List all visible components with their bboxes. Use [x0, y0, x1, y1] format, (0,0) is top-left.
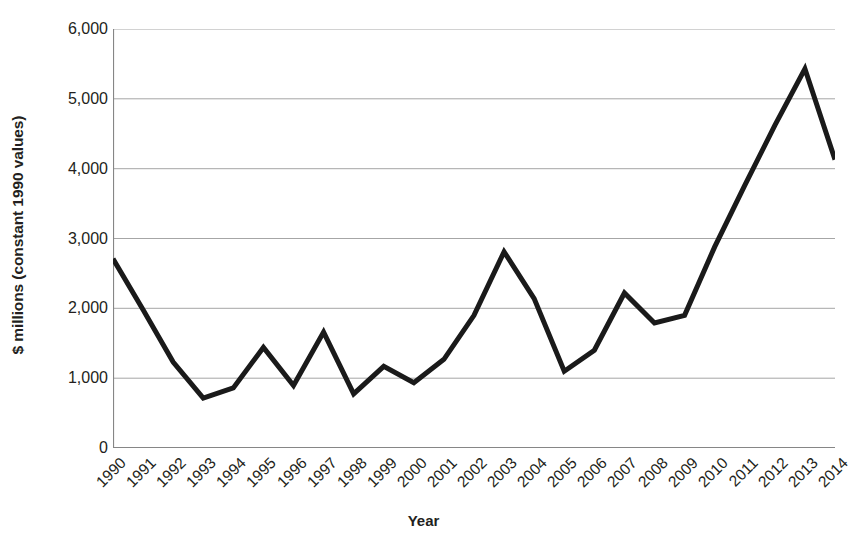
y-axis-title: $ millions (constant 1990 values)	[0, 0, 36, 470]
x-axis-title: Year	[0, 512, 847, 529]
y-axis-tick-label: 2,000	[42, 300, 108, 316]
y-axis-tick-label: 4,000	[42, 161, 108, 177]
y-axis-tick-label: 6,000	[42, 21, 108, 37]
data-series-line	[113, 69, 835, 398]
y-axis-tick-labels: 01,0002,0003,0004,0005,0006,000	[36, 0, 108, 538]
plot-area	[113, 29, 835, 448]
plot-svg	[113, 29, 835, 448]
y-axis-tick-label: 3,000	[42, 231, 108, 247]
y-axis-tick-label: 1,000	[42, 370, 108, 386]
gridlines	[113, 29, 835, 378]
y-axis-tick-label: 5,000	[42, 91, 108, 107]
y-axis-tick-label: 0	[42, 440, 108, 456]
x-axis-tick-labels: 1990199119921993199419951996199719981999…	[113, 448, 835, 518]
y-axis-title-text: $ millions (constant 1990 values)	[9, 116, 27, 355]
